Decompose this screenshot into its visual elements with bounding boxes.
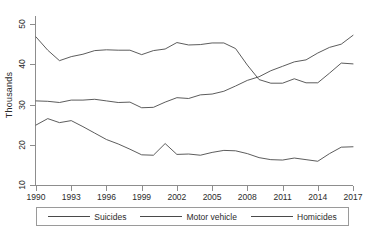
chart-legend: SuicidesMotor vehicleHomicides (36, 207, 349, 226)
series-line-homicides (36, 119, 353, 162)
legend-entry-suicides[interactable]: Suicides (48, 212, 126, 222)
series-line-suicides (36, 35, 353, 107)
legend-line-swatch (140, 216, 182, 217)
legend-entry-homicides[interactable]: Homicides (251, 212, 337, 222)
legend-label: Motor vehicle (186, 212, 237, 222)
legend-line-swatch (251, 216, 293, 217)
legend-label: Suicides (94, 212, 126, 222)
legend-label: Homicides (297, 212, 337, 222)
legend-entry-motor-vehicle[interactable]: Motor vehicle (140, 212, 237, 222)
legend-line-swatch (48, 216, 90, 217)
